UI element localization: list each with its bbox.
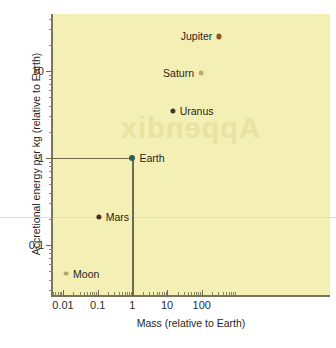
y-tick-minor — [49, 171, 53, 172]
y-tick-minor — [49, 184, 53, 185]
x-tick-minor — [223, 292, 224, 295]
y-tick-minor — [49, 271, 53, 272]
x-axis-title: Mass (relative to Earth) — [52, 317, 330, 329]
y-tick-minor — [49, 79, 53, 80]
x-tick-minor — [125, 292, 126, 295]
data-label-earth: Earth — [139, 152, 164, 164]
x-tick-minor — [159, 292, 160, 295]
x-tick-minor — [218, 292, 219, 295]
x-tick-major — [202, 290, 203, 296]
x-tick-minor — [162, 292, 163, 295]
x-tick-minor — [149, 292, 150, 295]
x-tick-minor — [226, 292, 227, 295]
y-tick-major — [46, 245, 53, 246]
x-tick-minor — [96, 292, 97, 295]
x-tick-minor — [55, 292, 56, 295]
x-tick-minor — [90, 292, 91, 295]
x-tick-minor — [191, 292, 192, 295]
x-tick-minor — [114, 292, 115, 295]
x-tick-minor — [196, 292, 197, 295]
y-tick-minor — [49, 219, 53, 220]
x-axis-spine — [51, 295, 330, 297]
x-tick-minor — [73, 292, 74, 295]
x-tick-minor — [87, 292, 88, 295]
data-point-saturn[interactable] — [199, 71, 204, 76]
earth-horizontal-guide — [52, 158, 132, 159]
x-tick-minor — [127, 292, 128, 295]
y-tick-minor — [49, 290, 53, 291]
y-tick-minor — [49, 249, 53, 250]
chart-figure: Appendix 0.010.11101000.1110 JupiterSatu… — [0, 0, 336, 348]
data-label-saturn: Saturn — [163, 67, 194, 79]
y-tick-minor — [49, 19, 53, 20]
data-label-moon: Moon — [73, 268, 99, 280]
x-tick-minor — [229, 292, 230, 295]
y-tick-minor — [49, 132, 53, 133]
y-tick-minor — [49, 264, 53, 265]
x-tick-minor — [153, 292, 154, 295]
y-axis-title: Accretional energy per kg (relative to E… — [30, 29, 42, 279]
x-tick-minor — [200, 292, 201, 295]
x-tick-minor — [188, 292, 189, 295]
x-tick-minor — [231, 292, 232, 295]
x-tick-minor — [61, 292, 62, 295]
earth-vertical-guide — [132, 158, 133, 295]
plot-area — [52, 14, 330, 295]
y-tick-minor — [49, 258, 53, 259]
y-tick-minor — [49, 203, 53, 204]
x-tick-label: 100 — [182, 299, 222, 311]
x-tick-minor — [166, 292, 167, 295]
y-tick-minor — [49, 106, 53, 107]
x-tick-minor — [84, 292, 85, 295]
x-tick-minor — [122, 292, 123, 295]
x-tick-minor — [80, 292, 81, 295]
x-tick-minor — [108, 292, 109, 295]
y-tick-minor — [49, 97, 53, 98]
y-tick-minor — [49, 29, 53, 30]
x-tick-minor — [119, 292, 120, 295]
x-tick-minor — [212, 292, 213, 295]
data-label-jupiter: Jupiter — [181, 30, 213, 42]
x-tick-major — [98, 290, 99, 296]
y-tick-minor — [49, 75, 53, 76]
y-tick-minor — [49, 280, 53, 281]
x-tick-minor — [194, 292, 195, 295]
y-tick-minor — [49, 193, 53, 194]
y-tick-minor — [49, 84, 53, 85]
x-tick-minor — [143, 292, 144, 295]
data-point-moon[interactable] — [64, 271, 69, 276]
y-tick-minor — [49, 177, 53, 178]
x-tick-minor — [53, 292, 54, 295]
y-tick-minor — [49, 90, 53, 91]
x-tick-minor — [178, 292, 179, 295]
y-tick-minor — [49, 166, 53, 167]
data-point-earth[interactable] — [129, 155, 135, 161]
x-tick-minor — [92, 292, 93, 295]
y-tick-minor — [49, 116, 53, 117]
data-label-mars: Mars — [106, 211, 129, 223]
y-tick-minor — [49, 162, 53, 163]
x-tick-minor — [58, 292, 59, 295]
x-tick-major — [63, 290, 64, 296]
y-tick-minor — [49, 45, 53, 46]
x-tick-major — [167, 290, 168, 296]
y-tick-minor — [49, 253, 53, 254]
x-tick-minor — [184, 292, 185, 295]
x-tick-minor — [235, 292, 236, 295]
y-tick-major — [46, 71, 53, 72]
x-tick-minor — [157, 292, 158, 295]
data-label-uranus: Uranus — [180, 105, 214, 117]
